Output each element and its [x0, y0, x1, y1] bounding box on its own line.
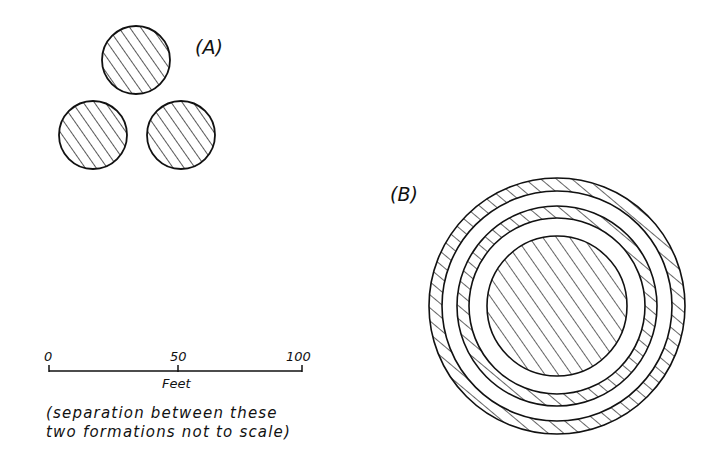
diagram-canvas: (A) (B) 0 50 100 Feet (separation betwee… [0, 0, 726, 470]
formation-b-inner-disk [487, 236, 627, 376]
scale-tick-100: 100 [286, 349, 311, 364]
note-line-1: (separation between these [46, 404, 278, 422]
formation-a-circle-top [102, 26, 170, 94]
scale-tick-0: 0 [44, 349, 52, 364]
scale-tick-50: 50 [170, 349, 187, 364]
scale-unit-label: Feet [162, 376, 191, 391]
note-line-2: two formations not to scale) [46, 423, 291, 441]
scale-note: (separation between these two formations… [46, 404, 291, 441]
formation-a: (A) [59, 26, 223, 169]
formation-a-circle-bottom-left [59, 101, 127, 169]
formation-a-circle-bottom-right [147, 101, 215, 169]
scale-bar: 0 50 100 Feet [44, 349, 311, 391]
formation-b: (B) [390, 170, 700, 445]
formation-b-label: (B) [390, 183, 418, 205]
formation-a-label: (A) [195, 36, 223, 58]
